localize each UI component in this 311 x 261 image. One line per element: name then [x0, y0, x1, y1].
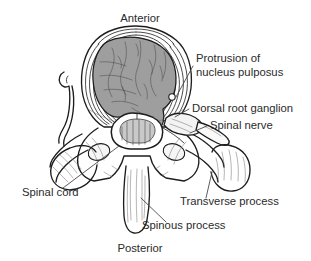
label-spinal-cord: Spinal cord — [22, 186, 79, 198]
label-posterior: Posterior — [117, 242, 162, 254]
label-spinal-nerve: Spinal nerve — [210, 119, 273, 131]
label-transverse-process: Transverse process — [180, 195, 279, 207]
vertebra-cross-section-svg: Anterior Posterior Protrusion of nucleus… — [0, 0, 311, 261]
label-spinous-process: Spinous process — [142, 219, 226, 231]
protrusion-site-marker — [169, 94, 175, 100]
anatomy-figure: Anterior Posterior Protrusion of nucleus… — [0, 0, 311, 261]
spinal-cord — [111, 113, 163, 149]
label-anterior: Anterior — [120, 12, 160, 24]
label-protrusion-line2: nucleus pulposus — [196, 66, 284, 78]
label-dorsal-root-ganglion: Dorsal root ganglion — [192, 102, 293, 114]
label-protrusion-line1: Protrusion of — [196, 52, 261, 64]
